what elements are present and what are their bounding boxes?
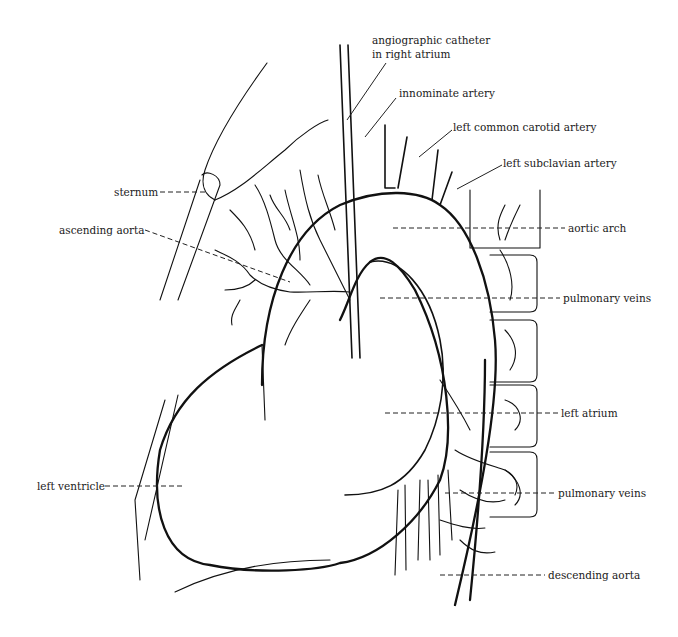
carotid-leader xyxy=(419,130,452,157)
spine-vessels xyxy=(498,205,520,505)
anatomy-diagram: angiographic catheter in right atrium in… xyxy=(0,0,678,637)
label-left-ventricle: left ventricle xyxy=(37,480,105,493)
vertebra-2 xyxy=(490,255,537,312)
lower-vessels xyxy=(395,470,452,575)
label-left-common-carotid-artery: left common carotid artery xyxy=(453,121,596,134)
label-sternum: sternum xyxy=(114,186,158,199)
label-aortic-arch: aortic arch xyxy=(568,222,626,235)
chest-wall-inner-curve xyxy=(215,120,328,200)
catheter-leader xyxy=(347,63,386,120)
ascending-aorta-leader xyxy=(145,230,290,282)
heart-line-drawing xyxy=(0,0,678,637)
innominate-artery-stub xyxy=(385,125,407,188)
coronary-vessels-upper xyxy=(215,170,350,345)
label-catheter-line1: angiographic catheter xyxy=(372,34,490,47)
label-left-atrium: left atrium xyxy=(561,407,618,420)
label-descending-aorta: descending aorta xyxy=(548,569,640,582)
apex-line xyxy=(175,560,330,592)
innominate-leader xyxy=(365,98,396,137)
left-carotid-stub xyxy=(432,150,452,205)
left-atrium-curve xyxy=(345,261,443,495)
vertebra-5 xyxy=(490,452,537,517)
vertebra-4 xyxy=(490,385,537,447)
chest-wall-curve xyxy=(203,63,267,200)
label-innominate-artery: innominate artery xyxy=(399,87,495,100)
label-pulmonary-veins-upper: pulmonary veins xyxy=(563,292,651,305)
label-pulmonary-veins-lower: pulmonary veins xyxy=(558,487,646,500)
label-left-subclavian-artery: left subclavian artery xyxy=(503,157,617,170)
vertebra-3 xyxy=(490,320,537,382)
label-ascending-aorta: ascending aorta xyxy=(59,224,145,237)
label-catheter-line2: in right atrium xyxy=(372,48,450,61)
aorta-outline xyxy=(262,193,496,605)
heart-outline xyxy=(157,258,448,571)
subclavian-leader xyxy=(457,165,502,189)
